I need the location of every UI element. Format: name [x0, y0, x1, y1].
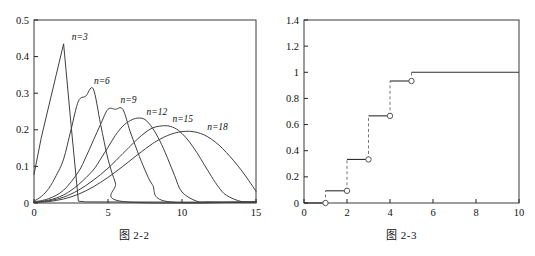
x-axis-tick-label: 5 — [105, 207, 110, 218]
x-axis-tick-label: 6 — [430, 207, 435, 218]
plot-frame — [304, 20, 519, 203]
y-axis-tick-label: 0.4 — [286, 145, 300, 156]
x-axis-tick-label: 8 — [473, 207, 478, 218]
curve-annotation-n-3: n=3 — [72, 32, 88, 42]
y-axis-tick-label: 0.1 — [16, 161, 29, 172]
y-axis-tick-label: 0 — [24, 198, 29, 209]
density-curve-n-6 — [34, 88, 256, 203]
y-axis-tick-label: 0.8 — [286, 93, 299, 104]
figure-caption-2-3: 图 2-3 — [268, 226, 535, 242]
y-axis-tick-label: 0.4 — [16, 51, 30, 62]
x-axis-tick-label: 0 — [31, 207, 36, 218]
y-axis-tick-label: 0.2 — [16, 124, 29, 135]
figure-panel-left: 05101500.10.20.30.40.5n=3n=6n=9n=12n=15n… — [0, 0, 268, 256]
curve-annotation-n-18: n=18 — [207, 122, 228, 132]
y-axis-tick-label: 0.5 — [16, 15, 29, 26]
figure-caption-2-2: 图 2-2 — [0, 226, 268, 242]
step-open-circle-marker — [366, 157, 371, 162]
figure-panel-right: 024681000.20.40.60.811.21.4 图 2-3 — [268, 0, 535, 256]
chart-2-3: 024681000.20.40.60.811.21.4 — [268, 0, 535, 224]
x-axis-tick-label: 2 — [344, 207, 349, 218]
x-axis-tick-label: 15 — [251, 207, 262, 218]
figure-board: 05101500.10.20.30.40.5n=3n=6n=9n=12n=15n… — [0, 0, 535, 256]
step-open-circle-marker — [387, 113, 392, 118]
y-axis-tick-label: 1.2 — [286, 41, 299, 52]
density-curve-n-15 — [34, 126, 256, 203]
y-axis-tick-label: 0.2 — [286, 171, 299, 182]
x-axis-tick-label: 0 — [301, 207, 306, 218]
y-axis-tick-label: 0.3 — [16, 88, 29, 99]
x-axis-tick-label: 4 — [387, 207, 393, 218]
x-axis-tick-label: 10 — [514, 207, 525, 218]
curve-annotation-n-6: n=6 — [94, 76, 110, 86]
plot-frame — [34, 20, 256, 203]
chart-2-2: 05101500.10.20.30.40.5n=3n=6n=9n=12n=15n… — [0, 0, 268, 224]
x-axis-tick-label: 10 — [177, 207, 188, 218]
step-open-circle-marker — [409, 78, 414, 83]
y-axis-tick-label: 1 — [294, 67, 299, 78]
curve-annotation-n-9: n=9 — [121, 95, 137, 105]
step-open-circle-marker — [323, 200, 328, 205]
y-axis-tick-label: 1.4 — [286, 15, 300, 26]
curve-annotation-n-12: n=12 — [146, 107, 167, 117]
curve-annotation-n-15: n=15 — [172, 114, 193, 124]
y-axis-tick-label: 0.6 — [286, 119, 299, 130]
step-open-circle-marker — [344, 188, 349, 193]
y-axis-tick-label: 0 — [294, 198, 299, 209]
step-function — [304, 72, 519, 205]
